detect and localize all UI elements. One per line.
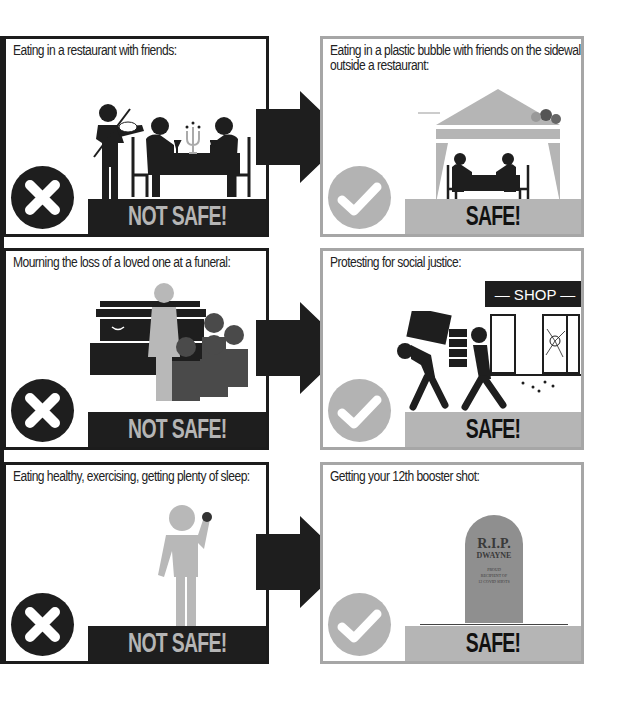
panel-booster-shot-safe: Getting your 12th booster shot: R.I.P. D…: [320, 462, 584, 664]
funeral-illustration: [90, 283, 260, 403]
panel-healthy-living-not-safe: Eating healthy, exercising, getting plen…: [3, 462, 269, 664]
caption: Eating healthy, exercising, getting plen…: [13, 469, 269, 484]
tent-dining-illustration: [418, 85, 578, 209]
panel-restaurant-not-safe: Eating in a restaurant with friends: NOT…: [3, 36, 269, 237]
x-icon: [11, 593, 74, 656]
check-icon: [328, 379, 391, 442]
panel-protest-safe: Protesting for social justice: — SHOP — …: [320, 248, 584, 450]
verdict-banner: NOT SAFE!: [88, 626, 266, 661]
tombstone: R.I.P. DWAYNE PROUD RECIPIENT OF 12 COVI…: [465, 515, 523, 623]
panel-plastic-bubble-safe: Eating in a plastic bubble with friends …: [320, 36, 584, 237]
verdict-banner: SAFE!: [405, 412, 581, 447]
verdict-banner: SAFE!: [405, 626, 581, 661]
caption: Mourning the loss of a loved one at a fu…: [13, 255, 269, 270]
verdict-banner: NOT SAFE!: [88, 412, 266, 447]
shop-sign: — SHOP —: [485, 281, 584, 307]
ground-line: [420, 624, 568, 625]
caption: Getting your 12th booster shot:: [330, 469, 584, 484]
x-icon: [11, 379, 74, 442]
person-with-apple-illustration: [154, 505, 216, 629]
tombstone-rip: R.I.P.: [465, 537, 523, 551]
x-icon: [11, 166, 74, 229]
caption: Eating in a plastic bubble with friends …: [330, 43, 584, 73]
panel-funeral-not-safe: Mourning the loss of a loved one at a fu…: [3, 248, 269, 450]
check-icon: [328, 593, 391, 656]
restaurant-illustration: [86, 97, 266, 207]
caption: Eating in a restaurant with friends:: [13, 43, 269, 58]
caption: Protesting for social justice:: [330, 255, 584, 270]
verdict-banner: NOT SAFE!: [88, 199, 266, 234]
check-icon: [328, 166, 391, 229]
verdict-banner: SAFE!: [405, 199, 581, 234]
tombstone-name: DWAYNE: [465, 551, 523, 561]
